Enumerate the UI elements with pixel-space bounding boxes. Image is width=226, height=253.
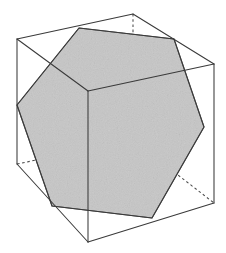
cube-cross-section-diagram xyxy=(0,0,226,253)
figure-container xyxy=(0,0,226,253)
